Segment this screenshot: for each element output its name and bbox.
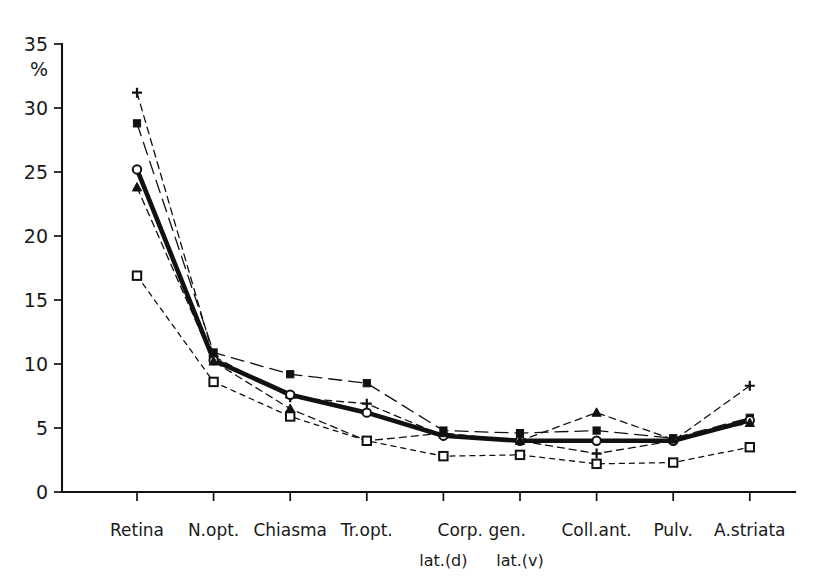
figure-container: 05101520253035% RetinaN.opt.ChiasmaTr.op…: [0, 0, 823, 587]
line-chart-plot: 05101520253035% RetinaN.opt.ChiasmaTr.op…: [0, 0, 823, 587]
data-point-filled-triangle-marker: [132, 183, 141, 191]
series-line-path: [137, 123, 750, 438]
x-axis-tick-label: Tr.opt.: [340, 520, 393, 540]
data-point-open-square-marker: [746, 443, 754, 451]
y-axis-tick-label: 15: [24, 289, 48, 311]
series-line-path: [137, 169, 750, 440]
y-axis-tick-label: 20: [24, 225, 48, 247]
data-series-series-plus: [132, 88, 755, 459]
data-point-filled-square-marker: [363, 380, 370, 387]
data-series-series-filled-square: [133, 120, 753, 442]
data-point-filled-triangle-marker: [286, 404, 295, 412]
data-point-plus-marker: [745, 381, 755, 391]
data-series-group: [132, 88, 755, 468]
data-point-open-circle-marker: [363, 408, 371, 416]
y-axis-tick-label: 25: [24, 161, 48, 183]
y-axis-tick-label: 35: [24, 33, 48, 55]
x-axis-tick-label: N.opt.: [188, 520, 239, 540]
data-point-plus-marker: [592, 449, 602, 459]
data-series-series-open-circle: [133, 165, 754, 445]
series-line-path: [137, 93, 750, 454]
data-point-filled-triangle-marker: [592, 408, 601, 416]
data-point-plus-marker: [132, 88, 142, 98]
y-axis-tick-label: 5: [36, 417, 48, 439]
x-axis-tick-label: Pulv.: [653, 520, 693, 540]
x-axis-tick-sublabel: lat.(d): [419, 551, 467, 570]
data-point-open-square-marker: [516, 451, 524, 459]
x-axis-tick-label: Retina: [110, 520, 164, 540]
data-point-plus-marker: [362, 399, 372, 409]
x-tick-labels: RetinaN.opt.ChiasmaTr.opt.Corp. gen.lat.…: [110, 520, 786, 570]
y-axis-tick-label: 30: [24, 97, 48, 119]
data-point-open-square-marker: [363, 437, 371, 445]
x-axis-tick-label: Chiasma: [253, 520, 327, 540]
y-axis-tick-label: 0: [36, 481, 48, 503]
data-point-filled-square-marker: [287, 371, 294, 378]
data-point-open-square-marker: [439, 452, 447, 460]
data-point-open-square-marker: [209, 378, 217, 386]
x-axis-tick-label: Corp. gen.: [438, 520, 526, 540]
series-line-path: [137, 187, 750, 440]
data-point-open-square-marker: [669, 458, 677, 466]
x-axis-tick-label: A.striata: [714, 520, 785, 540]
data-point-open-square-marker: [286, 412, 294, 420]
data-point-open-circle-marker: [286, 391, 294, 399]
chart-title: [0, 0, 823, 3]
y-axis: 05101520253035%: [24, 33, 62, 503]
data-series-series-filled-triangle: [132, 183, 754, 445]
data-point-filled-square-marker: [593, 427, 600, 434]
data-point-open-circle-marker: [133, 165, 141, 173]
data-point-open-square-marker: [592, 460, 600, 468]
data-point-open-circle-marker: [592, 437, 600, 445]
y-axis-tick-label: 10: [24, 353, 48, 375]
data-point-open-square-marker: [133, 271, 141, 279]
y-axis-unit-label: %: [30, 58, 48, 80]
data-point-filled-square-marker: [133, 120, 140, 127]
x-axis: [62, 492, 795, 501]
x-axis-tick-label: Coll.ant.: [561, 520, 631, 540]
x-axis-tick-sublabel: lat.(v): [496, 551, 544, 570]
